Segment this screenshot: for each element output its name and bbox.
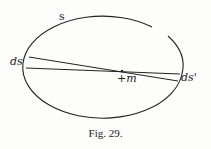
label-s: s (59, 10, 65, 23)
label-ds-prime: ds' (181, 71, 197, 84)
figure-caption: Fig. 29. (0, 127, 211, 139)
label-ds: ds (10, 55, 23, 68)
label-m: +m (117, 72, 137, 85)
figure: s ds ds' +m Fig. 29. (0, 0, 211, 149)
ellipse-arc-main (23, 16, 183, 118)
